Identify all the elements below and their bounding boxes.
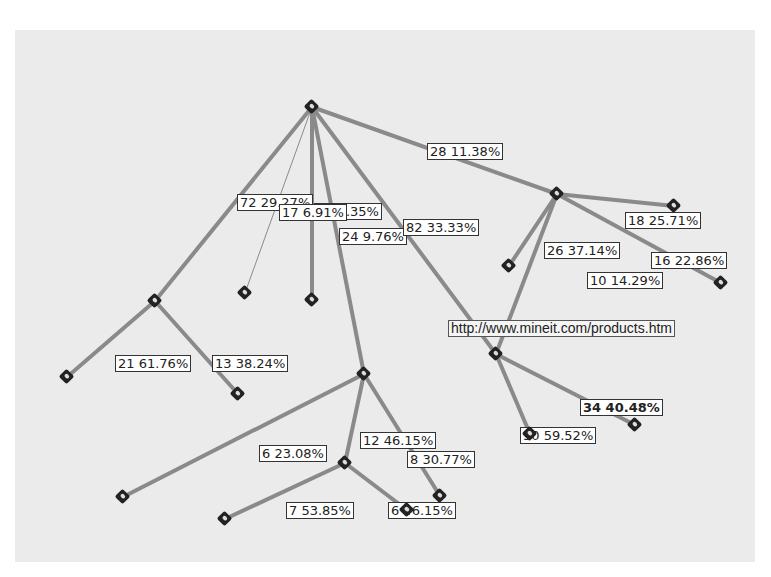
edge-label: 21 61.76%: [115, 355, 191, 372]
edge-label: 34 40.48%: [580, 399, 663, 416]
tree-edge: [345, 374, 364, 463]
edge-label: 12 46.15%: [360, 432, 436, 449]
edge-label: 28 11.38%: [427, 143, 503, 160]
edge-label: 18 25.71%: [625, 212, 701, 229]
edge-label: 17 6.91%: [279, 204, 347, 221]
tree-edge: [496, 354, 530, 434]
edge-label: 16 22.86%: [651, 252, 727, 269]
tree-edge: [155, 301, 238, 394]
edge-label: 26 37.14%: [544, 242, 620, 259]
edge-label: 6 46.15%: [388, 502, 456, 519]
edge-label: 7 53.85%: [286, 502, 354, 519]
edge-label: 82 33.33%: [403, 219, 479, 236]
tree-edge: [557, 194, 721, 283]
edge-label: 13 38.24%: [212, 355, 288, 372]
edge-label: 24 9.76%: [339, 228, 407, 245]
edge-label: 8 30.77%: [407, 451, 475, 468]
edge-label: 6 23.08%: [259, 445, 327, 462]
edge-label: 10 14.29%: [587, 272, 663, 289]
url-tooltip: http://www.mineit.com/products.htm: [448, 320, 675, 337]
